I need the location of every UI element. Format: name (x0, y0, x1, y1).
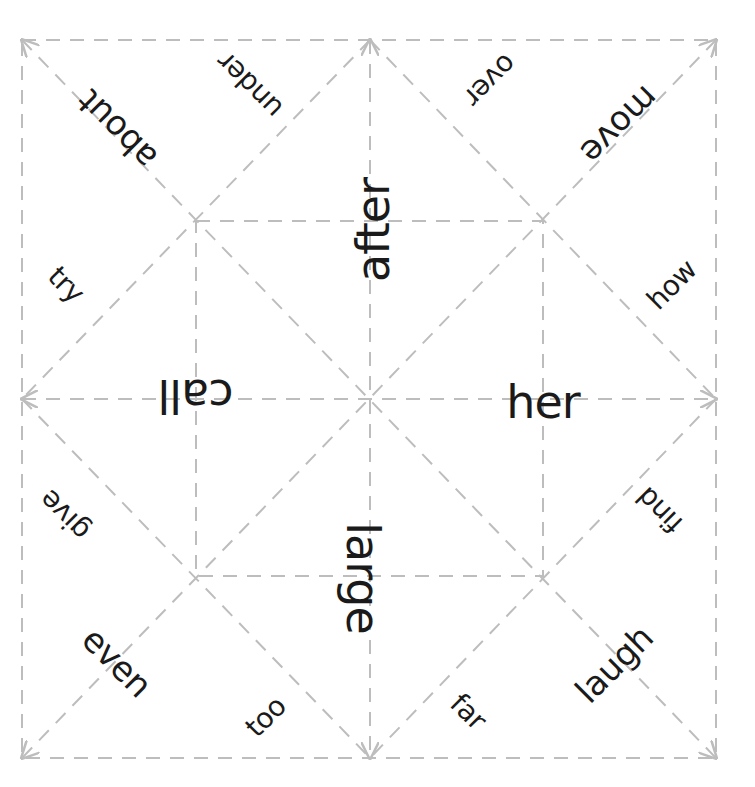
center-word-bottom: large (340, 522, 386, 634)
center-word-left: call (158, 373, 233, 419)
cootie-catcher-sheet: after call her large about under over mo… (0, 0, 755, 787)
center-word-right: her (506, 379, 579, 425)
center-word-top: after (350, 178, 396, 282)
